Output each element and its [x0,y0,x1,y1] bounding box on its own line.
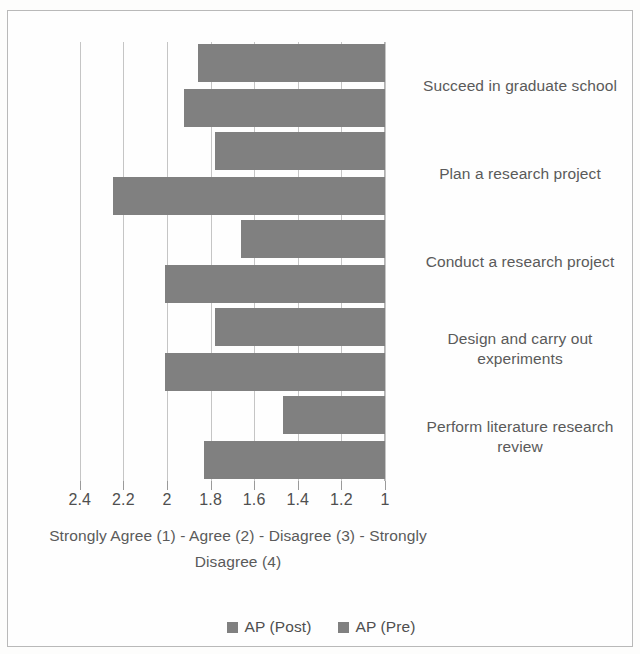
tick-label: 1.4 [275,491,321,509]
tick-label: 1.8 [188,491,234,509]
category-band [58,130,385,218]
bar-ap-post [283,396,385,434]
square-marker-icon [338,622,349,633]
tick-label: 1.6 [231,491,277,509]
axis-tick [341,481,342,490]
category-label-line: Plan a research project [400,164,640,184]
category-label: Design and carry outexperiments [400,329,640,369]
category-label-line: Perform literature research [400,417,640,437]
bar-ap-post [215,132,385,170]
category-band [58,305,385,393]
category-label-line: review [400,437,640,457]
legend-item[interactable]: AP (Pre) [338,618,416,636]
category-label-line: experiments [400,349,640,369]
legend-item[interactable]: AP (Post) [227,618,312,636]
gridline [385,42,386,481]
category-label: Plan a research project [400,164,640,184]
axis-title-line: Disagree (4) [38,549,438,575]
tick-label: 2 [144,491,190,509]
bar-ap-post [198,44,385,82]
tick-label: 2.4 [57,491,103,509]
bar-ap-post [215,308,385,346]
category-label-line: Succeed in graduate school [400,76,640,96]
bar-ap-pre [113,177,386,215]
legend-label: AP (Post) [245,618,312,636]
tick-label: 1 [362,491,408,509]
category-band [58,393,385,481]
axis-tick [211,481,212,490]
chart-frame: 2.42.221.81.61.41.21 Succeed in graduate… [7,10,633,647]
category-band [58,218,385,306]
x-axis-title: Strongly Agree (1) - Agree (2) - Disagre… [38,523,438,575]
category-label-line: Conduct a research project [400,252,640,272]
square-marker-icon [227,622,238,633]
axis-tick [123,481,124,490]
axis-tick [167,481,168,490]
tick-label: 2.2 [100,491,146,509]
bar-ap-pre [165,265,385,303]
bar-ap-pre [204,441,385,479]
bar-ap-pre [184,89,385,127]
chart-legend: AP (Post)AP (Pre) [8,618,634,636]
axis-tick [80,481,81,490]
category-label-line: Design and carry out [400,329,640,349]
category-band [58,42,385,130]
bar-ap-pre [165,353,385,391]
tick-label: 1.2 [318,491,364,509]
category-label: Perform literature researchreview [400,417,640,457]
legend-label: AP (Pre) [356,618,416,636]
axis-tick [385,481,386,490]
category-label: Conduct a research project [400,252,640,272]
category-label: Succeed in graduate school [400,76,640,96]
plot-area [58,42,385,481]
bar-ap-post [241,220,385,258]
axis-tick [254,481,255,490]
axis-tick [298,481,299,490]
axis-title-line: Strongly Agree (1) - Agree (2) - Disagre… [38,523,438,549]
